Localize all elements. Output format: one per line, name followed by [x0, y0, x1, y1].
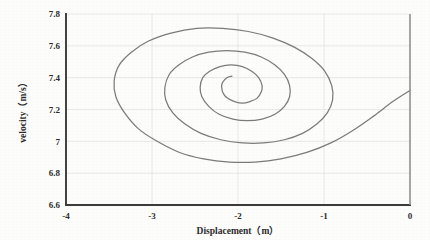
y-tick-label: 7.4 — [49, 73, 61, 83]
spiral-trajectory-line — [114, 28, 410, 163]
x-axis-title: Displacement（m） — [197, 225, 280, 236]
chart-figure: 7.87.67.47.276.86.6 -4-3-2-10 Displaceme… — [0, 0, 430, 240]
y-axis-title: velocity（m/s） — [17, 77, 28, 142]
x-tick-label: -4 — [62, 211, 70, 221]
y-tick-label: 6.8 — [49, 168, 61, 178]
y-tick-label: 7.2 — [49, 105, 61, 115]
plot-area — [114, 28, 410, 163]
y-tick-labels: 7.87.67.47.276.86.6 — [49, 9, 61, 210]
y-tick-label: 7.6 — [49, 41, 61, 51]
x-tick-label: -2 — [234, 211, 242, 221]
x-tick-label: -1 — [320, 211, 328, 221]
phase-plane-chart: 7.87.67.47.276.86.6 -4-3-2-10 Displaceme… — [0, 0, 430, 240]
x-tick-label: -3 — [148, 211, 156, 221]
gridlines-group — [66, 14, 410, 205]
y-tick-label: 6.6 — [49, 200, 61, 210]
y-tick-label: 7.8 — [49, 9, 61, 19]
y-tick-label: 7 — [56, 137, 61, 147]
x-tick-labels: -4-3-2-10 — [62, 211, 413, 221]
x-tick-label: 0 — [408, 211, 413, 221]
